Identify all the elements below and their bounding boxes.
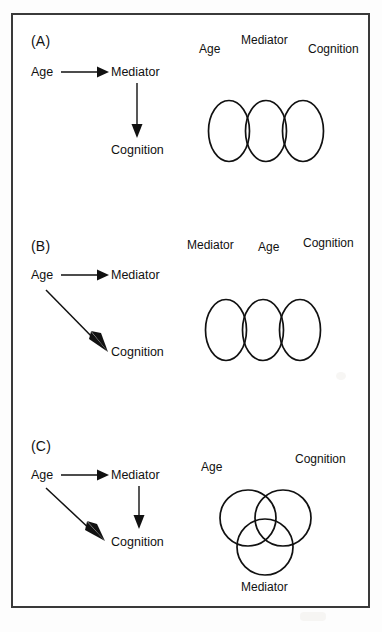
panel-c: (C) Age Mediator Cognition Age Cognition… bbox=[13, 420, 368, 610]
venn-circle-cognition bbox=[255, 490, 311, 546]
venn-circle-cognition bbox=[283, 101, 324, 162]
venn-circle-cognition bbox=[280, 300, 321, 361]
panel-b: (B) Age Mediator Cognition Mediator Age … bbox=[13, 220, 368, 420]
venn-circle-mediator bbox=[206, 300, 247, 361]
panel-b-venn bbox=[13, 220, 368, 420]
panel-a-venn bbox=[13, 15, 368, 220]
scan-artifact-bottom bbox=[300, 612, 326, 621]
venn-circle-mediator bbox=[246, 101, 287, 162]
panel-a: (A) Age Mediator Cognition Age Mediator … bbox=[13, 15, 368, 220]
panel-c-venn bbox=[13, 420, 368, 610]
scan-artifact bbox=[336, 372, 346, 380]
venn-circle-age bbox=[209, 101, 250, 162]
venn-circle-age bbox=[220, 490, 276, 546]
figure-frame: (A) Age Mediator Cognition Age Mediator … bbox=[11, 13, 370, 608]
venn-circle-age bbox=[243, 300, 284, 361]
venn-circle-mediator bbox=[237, 519, 293, 575]
